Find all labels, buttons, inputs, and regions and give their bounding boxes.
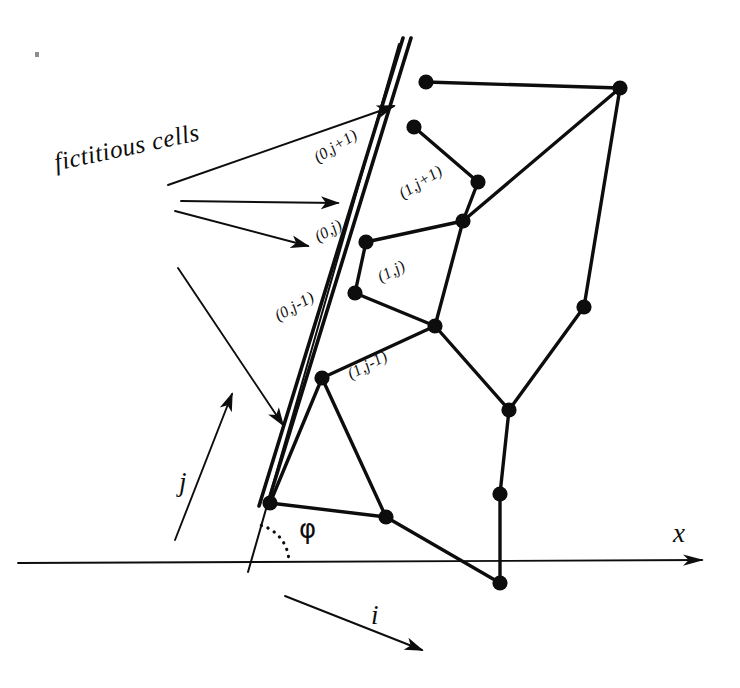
mesh-edge (435, 221, 463, 326)
mesh-node (406, 119, 421, 134)
mesh-edge (366, 221, 463, 242)
mesh-edge (509, 307, 584, 410)
mesh-node (418, 74, 433, 89)
mesh-node (492, 486, 507, 501)
mesh-node (427, 318, 442, 333)
scan-speck (35, 52, 39, 57)
mesh-node (492, 575, 507, 590)
mesh-edge (386, 517, 500, 583)
i-direction-arrow (285, 596, 422, 650)
mesh-node (358, 234, 373, 249)
mesh-edge (584, 88, 620, 307)
mesh-edge (322, 378, 386, 517)
mesh-node (501, 402, 516, 417)
mesh-node (470, 174, 485, 189)
mesh-edge (426, 82, 620, 88)
diagram-svg (0, 0, 740, 688)
mesh-node (576, 299, 591, 314)
mesh-node (314, 370, 329, 385)
mesh-edge (355, 242, 366, 293)
figure-canvas: fictitious cells (0,j+1)(1,j+1)(0,j)(1,j… (0, 0, 740, 688)
mesh-edge (463, 88, 620, 221)
mesh-node (612, 80, 627, 95)
mesh-edge (500, 410, 509, 494)
phi-dotted-arc (261, 525, 289, 561)
fictitious-arrow-down (175, 211, 308, 246)
x-axis-label: x (673, 520, 685, 547)
mesh-edge (435, 326, 509, 410)
fictitious-arrow-mid (181, 201, 338, 203)
scan-speck (35, 52, 39, 57)
mesh-node (455, 213, 470, 228)
i-index-label: i (371, 602, 379, 629)
j-index-label: j (179, 469, 187, 496)
mesh-edge (355, 293, 435, 326)
mesh-node (347, 285, 362, 300)
mesh-edge (270, 503, 386, 517)
phi-angle-label: φ (299, 516, 316, 542)
fictitious-arrow-lower (178, 268, 283, 425)
x-axis-arrow (18, 560, 702, 563)
mesh-node (378, 509, 393, 524)
phi-dotted-arc (261, 525, 289, 561)
